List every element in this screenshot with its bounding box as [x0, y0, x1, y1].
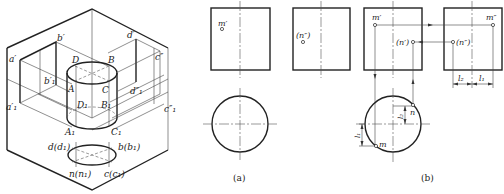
- label-c1-dprime: c″₁: [164, 104, 176, 114]
- dim-l1: l₁: [479, 74, 485, 83]
- isometric-view: b′ d′ a′ c″ D B b′₁ A C d″₁ a′₁ D₁ B₁ c″…: [6, 9, 176, 190]
- label-C: C: [102, 85, 109, 95]
- label-B: B: [107, 55, 115, 65]
- dim-top-l1: l₁: [354, 133, 362, 138]
- label-B1: B₁: [100, 100, 111, 110]
- dim-top-l2: l₂: [397, 114, 405, 119]
- point-n-dprime-b: [451, 40, 454, 43]
- label-A: A: [67, 84, 75, 94]
- label-a-prime: a′: [9, 54, 16, 64]
- point-n-prime-b: [411, 40, 414, 43]
- label-n-dprime-b: (n″): [456, 38, 470, 47]
- label-n-prime-b: (n′): [396, 38, 409, 47]
- label-m-prime-b: m′: [372, 13, 382, 22]
- label-n-dprime: (n″): [296, 31, 310, 40]
- label-C1: C₁: [111, 127, 122, 137]
- label-a1-prime: a′₁: [6, 102, 17, 112]
- panel-a: m′ (n″) (a): [203, 1, 350, 183]
- label-m-prime: m′: [218, 19, 228, 28]
- label-D1: D₁: [76, 100, 88, 110]
- point-n-top: [411, 103, 414, 106]
- label-b-b1: b(b₁): [118, 142, 141, 152]
- label-D: D: [71, 55, 79, 65]
- front-view-rect: [211, 8, 270, 70]
- caption-b: (b): [421, 173, 434, 183]
- label-b-prime: b′: [57, 33, 65, 43]
- label-d-d1: d(d₁): [48, 142, 71, 152]
- label-m-top: m: [379, 140, 387, 149]
- caption-a: (a): [233, 173, 245, 183]
- label-d1-dprime: d″₁: [130, 86, 143, 96]
- point-n-dprime: [301, 40, 304, 43]
- label-n-top: n: [410, 108, 415, 117]
- label-c-dprime: c″: [155, 52, 164, 62]
- point-m-dprime-b: [491, 23, 494, 26]
- label-b1-prime: b′₁: [44, 76, 55, 86]
- dim-l2: l₂: [458, 74, 464, 83]
- projection-figure: b′ d′ a′ c″ D B b′₁ A C d″₁ a′₁ D₁ B₁ c″…: [0, 0, 504, 194]
- point-m-prime-b: [373, 23, 376, 26]
- label-d-prime: d′: [127, 30, 135, 40]
- label-c-c1: c(c₁): [104, 169, 125, 179]
- point-m-top: [374, 144, 377, 147]
- label-m-dprime-b: m″: [486, 13, 497, 22]
- label-n-n1: n(n₁): [69, 169, 92, 179]
- panel-b: l₂ l₁ m′ (n′) m″ (n″) l₂ l₁ n m (b): [354, 1, 502, 183]
- label-A1: A₁: [64, 127, 75, 137]
